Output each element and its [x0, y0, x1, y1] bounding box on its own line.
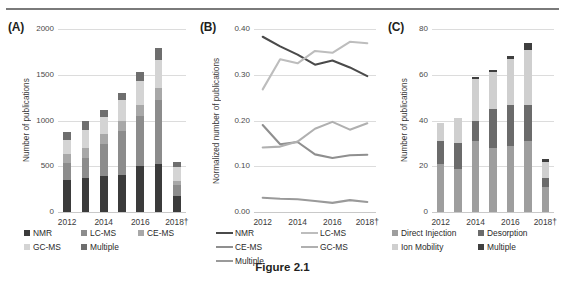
- bar-segment: [507, 59, 514, 105]
- legend-color-swatch: [392, 244, 398, 250]
- bar-segment: [82, 121, 90, 130]
- axis-baseline: [254, 212, 376, 213]
- panel-b: (B) Normalized number of publications 0.…: [196, 12, 386, 260]
- axis-baseline: [58, 212, 186, 213]
- bar-column: [507, 56, 514, 212]
- bar-segment: [507, 146, 514, 212]
- bar-segment: [524, 50, 531, 105]
- bar-segment: [173, 196, 181, 212]
- y-axis-tick-label: 0: [412, 207, 428, 216]
- legend-label: Multiple: [487, 242, 516, 252]
- bar-segment: [63, 163, 71, 181]
- x-axis-tick-label: 2012: [49, 217, 85, 227]
- bar-column: [542, 159, 549, 212]
- legend-color-swatch: [478, 244, 484, 250]
- legend-label: Ion Mobility: [401, 242, 443, 252]
- y-axis-tick-label: 20: [412, 161, 428, 170]
- y-axis-tick-label: 40: [412, 116, 428, 125]
- y-axis-tick-label: 0.20: [224, 116, 250, 125]
- x-axis-tick-label: 2016: [122, 217, 158, 227]
- legend-color-swatch: [24, 230, 30, 236]
- bar-segment: [524, 105, 531, 142]
- bar-segment: [63, 180, 71, 212]
- bar-segment: [82, 148, 90, 158]
- legend-item: GC-MS: [24, 242, 81, 252]
- bar-segment: [489, 109, 496, 148]
- bar-segment: [82, 178, 90, 212]
- panel-b-y-axis-title: Normalized number of publications: [212, 36, 221, 206]
- legend-label: NMR: [33, 228, 52, 238]
- bar-segment: [437, 123, 444, 141]
- legend-item: Multiple: [478, 242, 564, 252]
- bar-segment: [136, 81, 144, 106]
- bar-segment: [437, 164, 444, 212]
- panel-b-plot-area: 0.400.300.200.100.002012201420162018†: [254, 29, 376, 212]
- y-axis-tick-label: 0.30: [224, 70, 250, 79]
- x-axis-tick-label: 2018†: [159, 217, 195, 227]
- legend-item: LC-MS: [81, 228, 138, 238]
- bar-column: [489, 70, 496, 212]
- bar-segment: [63, 132, 71, 139]
- bar-segment: [100, 117, 108, 134]
- legend-item: LC-MS: [301, 228, 386, 238]
- bar-column: [155, 48, 163, 212]
- legend-item: CE-MS: [138, 228, 195, 238]
- y-axis-tick-label: 0.00: [224, 207, 250, 216]
- bar-segment: [100, 176, 108, 212]
- bar-segment: [63, 140, 71, 155]
- bar-segment: [472, 79, 479, 120]
- x-axis-tick-label: 2016: [314, 217, 350, 227]
- gridline: [58, 29, 186, 30]
- bar-column: [82, 121, 90, 212]
- gridline: [58, 75, 186, 76]
- x-axis-tick-label: 2016: [492, 217, 528, 227]
- x-axis-tick-label: 2018†: [527, 217, 563, 227]
- panel-c-plot-area: 8060402002012201420162018†: [432, 29, 554, 212]
- bar-segment: [82, 130, 90, 148]
- legend-label: CE-MS: [235, 242, 262, 252]
- bar-segment: [100, 134, 108, 144]
- bar-column: [454, 118, 461, 212]
- legend-label: Multiple: [90, 242, 119, 252]
- x-axis-tick-label: 2014: [86, 217, 122, 227]
- axis-baseline: [432, 212, 554, 213]
- legend-label: Direct Injection: [401, 228, 456, 238]
- bar-segment: [100, 144, 108, 176]
- legend-color-swatch: [81, 230, 87, 236]
- panel-a: (A) Number of publications 2000150010005…: [0, 12, 196, 260]
- bar-segment: [118, 131, 126, 175]
- legend-color-swatch: [81, 244, 87, 250]
- bar-column: [63, 132, 71, 212]
- panel-c-legend: Direct InjectionDesorptionIon MobilityMu…: [392, 228, 565, 256]
- bar-segment: [136, 72, 144, 81]
- bar-segment: [542, 187, 549, 212]
- y-axis-tick-label: 1500: [24, 70, 54, 79]
- bar-segment: [136, 116, 144, 166]
- legend-color-swatch: [138, 230, 144, 236]
- panel-c: (C) Number of publications 8060402002012…: [386, 12, 565, 260]
- legend-label: LC-MS: [320, 228, 346, 238]
- bar-segment: [118, 175, 126, 212]
- bar-segment: [155, 164, 163, 212]
- bar-column: [472, 77, 479, 212]
- legend-label: GC-MS: [320, 242, 348, 252]
- x-axis-tick-label: 2018†: [349, 217, 385, 227]
- y-axis-tick-label: 500: [24, 161, 54, 170]
- bar-segment: [136, 166, 144, 212]
- y-axis-tick-label: 2000: [24, 24, 54, 33]
- bar-segment: [454, 118, 461, 143]
- legend-label: CE-MS: [147, 228, 174, 238]
- bar-segment: [489, 72, 496, 109]
- legend-item: Multiple: [81, 242, 138, 252]
- legend-label: NMR: [235, 228, 254, 238]
- bar-segment: [437, 141, 444, 164]
- bar-segment: [454, 169, 461, 212]
- bar-segment: [524, 141, 531, 212]
- x-axis-tick-label: 2012: [423, 217, 459, 227]
- x-axis-tick-label: 2014: [280, 217, 316, 227]
- x-axis-tick-label: 2012: [245, 217, 281, 227]
- legend-line-swatch: [301, 246, 318, 249]
- bar-segment: [155, 100, 163, 163]
- bar-segment: [472, 141, 479, 212]
- line-multiple: [263, 198, 368, 203]
